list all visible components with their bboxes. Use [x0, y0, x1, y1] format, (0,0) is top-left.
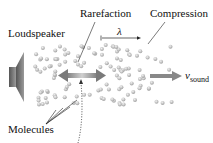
velocity-subscript: sound	[190, 75, 209, 84]
molecule-dot	[53, 48, 57, 52]
molecule-dot	[138, 49, 142, 53]
molecule-dot	[124, 67, 128, 71]
molecule-dot	[119, 85, 123, 89]
molecule-dot	[155, 100, 159, 104]
molecule-dot	[159, 60, 163, 64]
molecule-dot	[167, 68, 171, 72]
molecule-dot	[88, 93, 92, 97]
molecule-dot	[80, 44, 84, 48]
molecule-dot	[104, 43, 108, 47]
molecule-dot	[115, 56, 119, 60]
molecule-dot	[63, 60, 67, 64]
molecule-dot	[45, 89, 49, 93]
molecule-dot	[48, 64, 52, 68]
compression-label: Compression	[150, 8, 208, 19]
molecule-dot	[37, 102, 41, 106]
molecule-dot	[63, 95, 67, 99]
molecule-path-dotted	[78, 82, 82, 143]
molecule-dot	[58, 63, 62, 67]
molecule-dot	[75, 101, 79, 105]
molecule-dot	[112, 68, 116, 72]
molecule-dot	[98, 65, 102, 69]
rarefaction-label: Rarefaction	[80, 8, 131, 19]
molecule-dot	[105, 61, 109, 65]
molecule-dot	[130, 81, 134, 85]
molecule-dot	[41, 102, 45, 106]
molecule-dot	[110, 98, 114, 102]
molecule-dot	[99, 88, 103, 92]
molecule-dot	[73, 59, 77, 63]
velocity-arrow-icon	[150, 71, 182, 81]
loudspeaker-icon	[9, 52, 24, 102]
molecule-dot	[87, 46, 91, 50]
molecule-dot	[161, 101, 165, 105]
loudspeaker-label: Loudspeaker	[8, 28, 65, 39]
molecule-dot	[120, 70, 124, 74]
molecule-dot	[150, 81, 154, 85]
molecule-dot	[121, 97, 125, 101]
molecule-dot	[58, 44, 62, 48]
molecule-dot	[119, 58, 123, 62]
molecule-dot	[65, 85, 69, 89]
molecule-dot	[41, 46, 45, 50]
molecule-dot	[45, 100, 49, 104]
molecule-dot	[92, 51, 96, 55]
molecule-dot	[44, 96, 48, 100]
molecule-dot	[133, 98, 137, 102]
molecule-dot	[131, 90, 135, 94]
molecule-dot	[128, 53, 132, 57]
molecule-dot	[102, 97, 106, 101]
molecule-dot	[146, 56, 150, 60]
molecule-dot	[105, 83, 109, 87]
oscillation-arrow-icon	[58, 69, 106, 82]
molecule-dot	[82, 93, 86, 97]
molecule-dot	[79, 64, 83, 68]
compression-pointer	[148, 22, 165, 44]
diagram-canvas	[0, 0, 213, 143]
molecule-dot	[138, 77, 142, 81]
molecule-dot	[127, 73, 131, 77]
molecule-dot	[125, 48, 129, 52]
molecules-label: Molecules	[8, 124, 54, 135]
molecule-dot	[45, 57, 49, 61]
molecule-dot	[117, 66, 121, 70]
molecule-dot	[82, 61, 86, 65]
molecule-dot	[117, 76, 121, 80]
molecule-dot	[169, 45, 173, 49]
molecule-dot	[53, 69, 57, 73]
molecule-path-arrowhead	[79, 79, 83, 84]
molecule-dot	[43, 67, 47, 71]
molecule-dot	[138, 86, 142, 90]
molecule-dot	[114, 45, 118, 49]
molecule-dot	[39, 56, 43, 60]
sound-wave-diagram: Loudspeaker Rarefaction Compression λ vs…	[0, 0, 213, 143]
molecule-dot	[107, 87, 111, 91]
molecule-dot	[170, 100, 174, 104]
molecules-pointer-4	[46, 100, 77, 124]
molecules-pointer-2	[46, 108, 63, 124]
molecule-dot	[66, 51, 70, 55]
molecule-dot	[54, 95, 58, 99]
molecule-dot	[138, 68, 142, 72]
molecule-dot	[118, 102, 122, 106]
wavelength-label: λ	[117, 26, 122, 37]
velocity-label: vsound	[185, 70, 209, 84]
molecule-dot	[37, 99, 41, 103]
molecule-dot	[33, 65, 37, 69]
molecule-dot	[39, 91, 43, 95]
molecule-dot	[141, 74, 145, 78]
molecule-dot	[100, 47, 104, 51]
molecule-dot	[34, 52, 38, 56]
molecule-dot	[147, 86, 151, 90]
rarefaction-pointer	[78, 22, 95, 62]
molecule-dot	[54, 57, 58, 61]
molecule-dot	[76, 54, 80, 58]
molecule-dot	[153, 57, 157, 61]
molecule-dot	[122, 102, 126, 106]
molecule-dot	[100, 53, 104, 57]
molecule-dot	[109, 65, 113, 69]
molecules-pointer-1	[46, 110, 56, 124]
molecule-dot	[63, 48, 67, 52]
molecule-dot	[126, 93, 130, 97]
molecule-dot	[135, 54, 139, 58]
